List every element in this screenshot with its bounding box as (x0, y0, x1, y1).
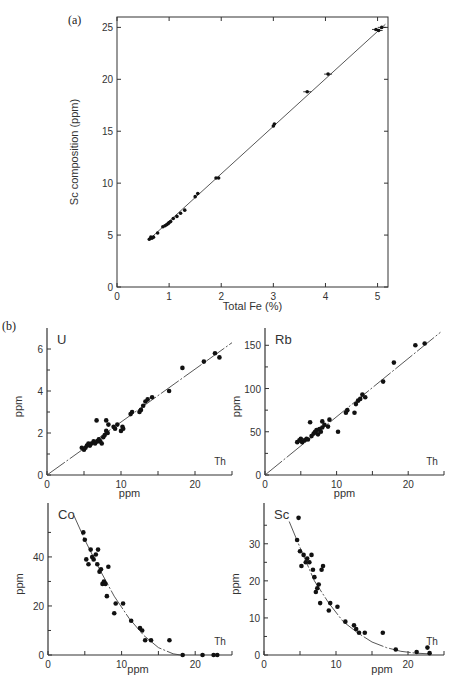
y-tick-label: 25 (102, 22, 114, 33)
data-point (139, 408, 144, 413)
x-axis-label: ppm (371, 663, 392, 675)
data-point (175, 215, 179, 219)
data-point (217, 355, 222, 360)
x-axis-label: ppm (127, 663, 148, 675)
data-point (113, 427, 118, 432)
data-point (413, 343, 418, 348)
x-axis-label: ppm (334, 487, 355, 499)
data-point (145, 397, 150, 402)
data-point (296, 516, 301, 521)
data-point (354, 627, 359, 632)
data-point (336, 429, 341, 434)
data-point (149, 638, 154, 643)
y-axis-label: ppm (230, 396, 242, 417)
x-tick-label: 0 (44, 479, 50, 490)
data-point (327, 608, 332, 613)
data-point (94, 418, 99, 423)
data-point (171, 217, 175, 221)
data-point (167, 638, 172, 643)
chart-sc-vs-th: 010200102030ppmppmScTh (229, 503, 444, 675)
x-tick-label: 20 (190, 659, 202, 670)
th-corner-label: Th (214, 636, 226, 647)
data-point (308, 420, 313, 425)
chart-co-vs-th: 0102002040ppmppmCoTh (13, 503, 232, 675)
data-point (427, 651, 432, 656)
data-point (105, 594, 110, 599)
y-tick-label: 15 (102, 126, 114, 137)
data-point (130, 410, 135, 415)
data-point (392, 360, 397, 365)
data-point (86, 562, 91, 567)
panel-b-label: (b) (2, 319, 16, 333)
x-tick-label: 0 (45, 659, 51, 670)
y-tick-label: 6 (37, 344, 43, 355)
data-point (335, 605, 340, 610)
y-tick-label: 50 (250, 427, 262, 438)
data-point (156, 231, 160, 235)
y-tick-label: 0 (38, 650, 44, 661)
data-point (301, 553, 306, 558)
data-point (352, 410, 357, 415)
data-point (150, 395, 155, 400)
data-point (183, 208, 187, 212)
data-point (422, 341, 427, 346)
x-axis-label: Total Fe (%) (223, 300, 282, 312)
y-tick-label: 4 (37, 386, 43, 397)
data-point (309, 553, 314, 558)
chart-sc-vs-fe: 0123450510152025Total Fe (%)Sc compositi… (68, 17, 388, 312)
data-point (152, 235, 156, 239)
data-point (343, 619, 348, 624)
element-label: Co (58, 507, 75, 522)
data-point (88, 547, 93, 552)
data-point (141, 403, 146, 408)
data-point (105, 431, 110, 436)
y-tick-label: 0 (255, 470, 261, 481)
plot-frame (117, 17, 388, 287)
data-point (95, 562, 100, 567)
x-tick-label: 0 (114, 291, 120, 302)
data-point (363, 395, 368, 400)
x-tick-label: 20 (189, 479, 201, 490)
data-point (106, 564, 111, 569)
data-point (143, 638, 148, 643)
data-point (358, 397, 363, 402)
data-point (113, 601, 118, 606)
y-axis-label: ppm (12, 396, 24, 417)
x-tick-label: 4 (323, 291, 329, 302)
y-tick-label: 2 (37, 428, 43, 439)
data-point (306, 437, 311, 442)
x-tick-label: 10 (330, 659, 342, 670)
y-tick-label: 20 (33, 601, 45, 612)
x-axis-label: ppm (119, 487, 140, 499)
data-point (91, 557, 96, 562)
x-tick-label: 5 (375, 291, 381, 302)
data-point (295, 538, 300, 543)
y-axis-label: Sc composition (ppm) (68, 99, 80, 205)
y-tick-label: 0 (107, 282, 113, 293)
data-point (307, 560, 312, 565)
fit-curve (74, 515, 181, 655)
y-axis-label: ppm (229, 573, 241, 594)
data-point (99, 567, 104, 572)
y-tick-label: 20 (102, 74, 114, 85)
data-point (112, 611, 117, 616)
data-point (196, 192, 200, 196)
data-point (200, 653, 205, 658)
data-point (121, 601, 126, 606)
regression-line (265, 332, 440, 475)
data-point (319, 429, 324, 434)
y-tick-label: 100 (244, 384, 261, 395)
y-tick-label: 20 (249, 576, 261, 587)
data-point (103, 582, 108, 587)
x-tick-label: 10 (116, 659, 128, 670)
element-label: Sc (274, 507, 290, 522)
x-tick-label: 0 (261, 659, 267, 670)
data-point (140, 628, 145, 633)
data-point (180, 653, 185, 658)
y-tick-label: 0 (254, 650, 260, 661)
data-point (311, 567, 316, 572)
chart-u-vs-th: 010200246ppmppmUTh (12, 328, 232, 499)
element-label: Rb (275, 332, 292, 347)
x-tick-label: 20 (402, 659, 414, 670)
data-point (312, 575, 317, 580)
